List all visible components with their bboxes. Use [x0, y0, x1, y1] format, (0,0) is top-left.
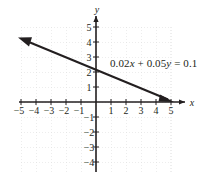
equation-constant: 0.1 — [183, 57, 197, 69]
y-tick-label: −1 — [84, 112, 95, 123]
x-tick-label: 1 — [109, 105, 114, 116]
x-tick-label: −2 — [59, 105, 70, 116]
y-tick-label: −3 — [84, 142, 95, 153]
equation-coefficient-b: 0.05 — [147, 57, 167, 69]
x-tick-label: −5 — [14, 105, 25, 116]
y-tick-label: 3 — [87, 52, 92, 63]
x-tick-label: 4 — [154, 105, 159, 116]
equation-equals-sign: = — [174, 57, 180, 69]
y-tick-label: −5 — [84, 172, 95, 174]
y-tick-label: −2 — [84, 127, 95, 138]
x-tick-label: −3 — [44, 105, 55, 116]
coordinate-plane-chart: −5 −4 −3 −2 −1 1 2 3 4 5 5 4 3 2 1 −1 −2… — [0, 0, 209, 174]
y-tick-label: 5 — [87, 22, 92, 33]
x-tick-label: 2 — [124, 105, 129, 116]
equation-variable-y: y — [166, 57, 171, 69]
x-axis-label: x — [189, 97, 195, 108]
x-tick-label: 3 — [139, 105, 144, 116]
equation-annotation: 0.02x + 0.05y = 0.1 — [110, 57, 197, 69]
equation-coefficient-a: 0.02 — [110, 57, 130, 69]
equation-plus-sign: + — [138, 57, 144, 69]
equation-variable-x: x — [130, 57, 135, 69]
x-tick-label: 5 — [169, 105, 174, 116]
x-tick-label: −4 — [29, 105, 40, 116]
y-tick-label: 4 — [87, 37, 92, 48]
y-tick-label: 1 — [87, 82, 92, 93]
y-tick-label: −4 — [84, 157, 95, 168]
y-axis-label: y — [94, 4, 100, 15]
